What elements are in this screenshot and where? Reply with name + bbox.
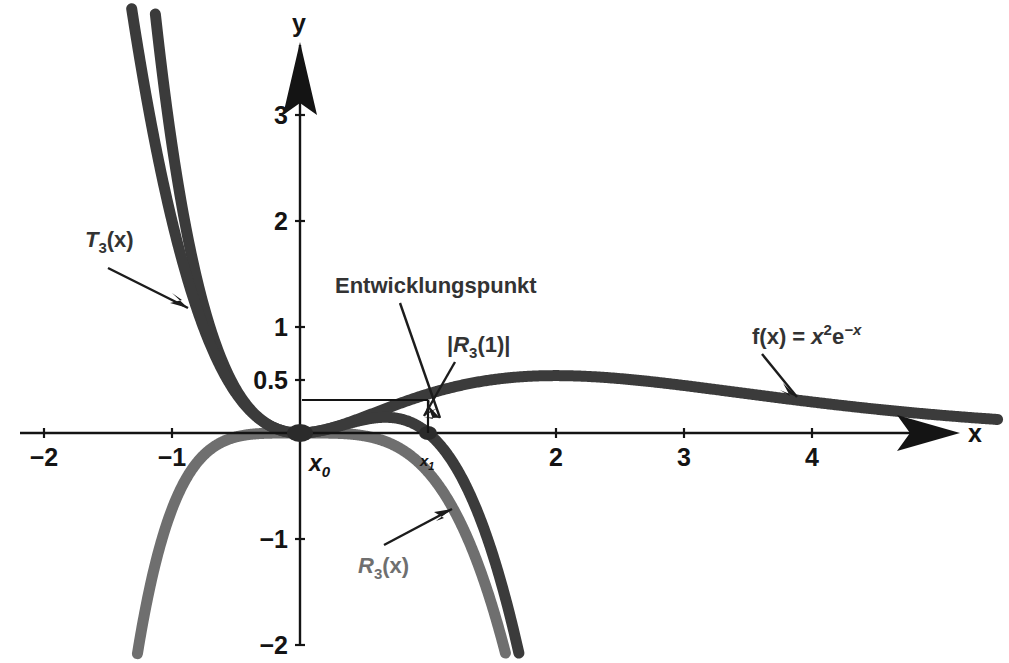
remainder-subscript: 3 <box>469 344 477 361</box>
remainder-curve-symbol: R <box>358 553 374 578</box>
taylor-label-text: T3(x) <box>85 227 134 256</box>
y-axis-label: y <box>292 9 306 37</box>
remainder-symbol: R <box>453 332 469 357</box>
function-e: e <box>832 324 844 349</box>
y-tick-label-2: 2 <box>274 207 288 235</box>
x-tick-label--1: −1 <box>158 443 187 471</box>
taylor-tail: (x) <box>107 227 134 252</box>
plot-canvas: −2−1234 3210.5−1−2 x y x0 x1 Entwicklung… <box>0 0 1009 663</box>
function-lead: f(x) = <box>752 324 811 349</box>
x-tick-label-3: 3 <box>677 443 691 471</box>
y-tick-label-3: 3 <box>274 101 288 129</box>
y-tick-label-0.5: 0.5 <box>253 366 288 394</box>
remainder-label-text: R3(x) <box>358 553 409 582</box>
expansion-point-text: Entwicklungspunkt <box>335 273 537 298</box>
function-x: x <box>810 324 824 349</box>
x0-base: x <box>307 450 323 476</box>
x-axis-label: x <box>968 419 982 447</box>
taylor-subscript: 3 <box>98 239 106 256</box>
taylor-series-figure: −2−1234 3210.5−1−2 x y x0 x1 Entwicklung… <box>0 0 1009 663</box>
y-tick-label-1: 1 <box>274 313 288 341</box>
x0-subscript: 0 <box>322 463 331 480</box>
y-tick-label--1: −1 <box>259 525 288 553</box>
expansion-point-marker <box>287 424 313 442</box>
remainder-curve-tail: (x) <box>382 553 409 578</box>
remainder-at-one-text: |R3(1)| <box>447 332 510 361</box>
remainder-curve-subscript: 3 <box>374 565 382 582</box>
function-exponent-minus-x: −x <box>844 321 862 338</box>
function-exponent-2: 2 <box>824 321 832 338</box>
remainder-tail: (1)| <box>477 332 510 357</box>
x-tick-label--2: −2 <box>30 443 59 471</box>
x-tick-label-2: 2 <box>549 443 563 471</box>
x-tick-label-4: 4 <box>805 443 819 471</box>
y-tick-label--2: −2 <box>259 631 288 659</box>
x1-subscript: 1 <box>428 460 434 472</box>
